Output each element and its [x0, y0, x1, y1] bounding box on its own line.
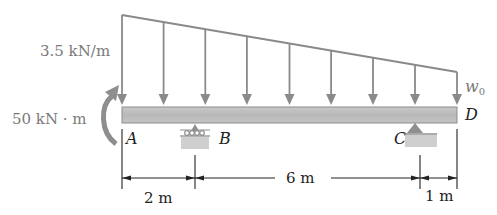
moment-label: 50 kN · m: [12, 110, 87, 128]
moment-arrow: [103, 85, 119, 144]
beam-diagram: 3.5 kN/m w0 50 kN · m A B C D: [0, 0, 497, 215]
point-label-d: D: [464, 105, 478, 124]
w-subscript: 0: [479, 86, 485, 97]
load-arrowheads: [117, 94, 462, 105]
point-label-b: B: [218, 129, 231, 148]
point-label-a: A: [124, 129, 138, 148]
dimension-label-cd: 1 m: [425, 187, 454, 205]
right-intensity-label: w0: [465, 77, 485, 97]
distributed-load: [117, 15, 462, 105]
pin-support-c: [404, 123, 437, 147]
point-label-c: C: [394, 129, 406, 148]
ground-b: [181, 137, 209, 149]
beam: [122, 107, 457, 123]
dimension-label-bc: 6 m: [286, 169, 315, 187]
ground-c: [405, 135, 437, 147]
left-intensity-label: 3.5 kN/m: [40, 42, 110, 60]
dimension-label-ab: 2 m: [144, 189, 173, 207]
roller-support-b: [180, 124, 210, 149]
load-arrows: [122, 15, 457, 95]
w-symbol: w: [465, 77, 479, 96]
